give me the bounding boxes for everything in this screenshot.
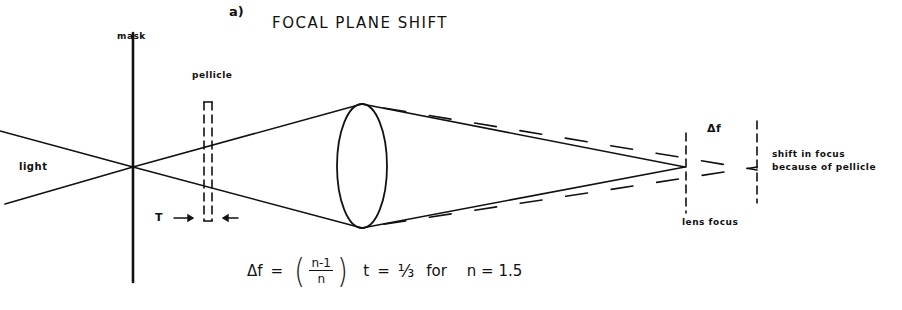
eq-for: for [426,262,447,280]
eq-lhs: Δf [247,262,263,280]
eq-denominator: n [317,271,325,286]
ray-lower-to-lens [133,167,362,228]
lens-focus-label: lens focus [682,217,738,227]
eq-equals2: = [377,262,390,280]
mask-label: mask [117,31,146,41]
thickness-label: T [155,211,163,224]
shift-label-line2: because of pellicle [772,162,876,172]
eq-condition: n = 1.5 [467,262,522,280]
thickness-arrows [174,215,238,221]
eq-equals: = [271,262,284,280]
light-ray-lower-in [5,167,133,204]
panel-label: a) [229,4,244,19]
eq-thickness-var: t [363,262,369,280]
shifted-ray-upper [372,106,757,170]
eq-fraction: n-1 n [309,256,333,286]
shift-label-line1: shift in focus [772,149,845,159]
ray-lower-to-focus [362,167,685,228]
ray-upper-to-focus [362,104,685,167]
pellicle-label: pellicle [192,70,232,80]
eq-close-paren: ) [337,254,348,288]
ray-upper-to-lens [133,104,362,167]
light-label: light [19,161,47,172]
focal-shift-equation: Δf = ( n-1 n ) t = ⅓ for n = 1.5 [247,254,522,288]
delta-f-label: Δf [707,122,721,135]
eq-numerator: n-1 [309,256,333,271]
eq-open-paren: ( [294,254,305,288]
eq-result: ⅓ [398,261,414,281]
figure-title: FOCAL PLANE SHIFT [272,14,448,32]
pellicle [204,102,212,221]
lens [337,104,387,228]
